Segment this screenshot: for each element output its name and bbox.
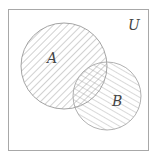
set-b-label: B bbox=[111, 93, 122, 109]
venn-diagram: U A B bbox=[0, 0, 153, 161]
universe-label: U bbox=[128, 17, 141, 33]
set-a-label: A bbox=[45, 50, 57, 66]
